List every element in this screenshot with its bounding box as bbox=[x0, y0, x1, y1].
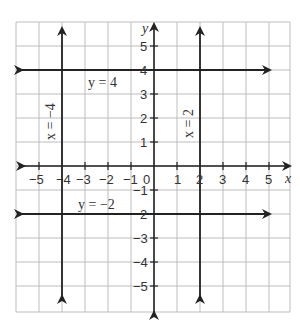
y-tick-label: −4 bbox=[133, 255, 148, 270]
y-tick-label: 3 bbox=[140, 87, 147, 102]
label-x-equals-neg4: x = −4 bbox=[43, 103, 58, 140]
y-tick-label: 5 bbox=[140, 39, 147, 54]
y-axis-label: y bbox=[140, 21, 149, 36]
x-tick-labels: −5 −4 −3 −2 −1 0 1 2 3 4 5 bbox=[29, 172, 272, 187]
x-tick-label: −5 bbox=[29, 172, 44, 187]
y-tick-label: −5 bbox=[133, 279, 148, 294]
grid bbox=[16, 22, 290, 312]
x-tick-label: 2 bbox=[196, 172, 203, 187]
y-tick-label: 2 bbox=[140, 111, 147, 126]
y-tick-label: −3 bbox=[133, 231, 148, 246]
x-axis-label: x bbox=[284, 171, 292, 186]
x-tick-label: 1 bbox=[174, 172, 181, 187]
label-y-equals-neg2: y = −2 bbox=[78, 197, 115, 212]
y-tick-label: 1 bbox=[140, 135, 147, 150]
coordinate-plane: y x −5 −4 −3 −2 −1 0 1 2 3 4 5 1 2 3 4 5… bbox=[0, 0, 300, 336]
x-tick-label: −4 bbox=[56, 172, 71, 187]
x-tick-label: −2 bbox=[99, 172, 114, 187]
y-tick-label: 4 bbox=[140, 63, 147, 78]
label-x-equals-2: x = 2 bbox=[181, 109, 196, 138]
x-tick-label: −3 bbox=[76, 172, 91, 187]
y-tick-label: 2 bbox=[140, 207, 147, 222]
label-y-equals-4: y = 4 bbox=[88, 75, 117, 90]
x-tick-label: 5 bbox=[265, 172, 272, 187]
x-tick-label: 4 bbox=[242, 172, 249, 187]
x-tick-label: 3 bbox=[219, 172, 226, 187]
y-tick-label: −1 bbox=[133, 183, 148, 198]
